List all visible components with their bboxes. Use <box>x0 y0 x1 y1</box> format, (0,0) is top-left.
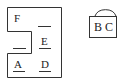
padlock-label: B C <box>94 21 113 33</box>
label-d: D <box>41 59 49 70</box>
label-d-underline <box>39 71 51 72</box>
label-a-underline <box>13 71 25 72</box>
blank-right-top <box>38 26 51 27</box>
label-a: A <box>14 59 22 70</box>
label-e: E <box>41 36 48 47</box>
padlock-shackle <box>95 10 116 16</box>
label-e-underline <box>39 48 51 49</box>
label-f: F <box>14 13 20 24</box>
blank-left-mid <box>13 48 26 49</box>
